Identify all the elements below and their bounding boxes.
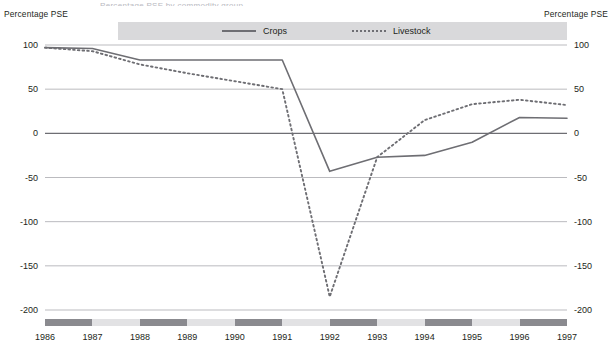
gridlines bbox=[45, 45, 567, 310]
x-band-segment-1993 bbox=[377, 319, 424, 326]
x-tick-1993: 1993 bbox=[367, 332, 387, 342]
chart-canvas: Percentage PSE by commodity group Percen… bbox=[0, 0, 612, 354]
series-layer bbox=[45, 48, 567, 297]
y-tick-left-0: 0 bbox=[33, 128, 38, 138]
x-tick-1995: 1995 bbox=[462, 332, 482, 342]
y-tick-right--200: -200 bbox=[574, 305, 592, 315]
y-tick-right--50: -50 bbox=[574, 173, 587, 183]
y-tick-left--100: -100 bbox=[20, 217, 38, 227]
x-band-segment-1989 bbox=[187, 319, 234, 326]
x-tick-1990: 1990 bbox=[225, 332, 245, 342]
x-band-segment-1988 bbox=[140, 319, 187, 326]
series-line-crops bbox=[45, 48, 567, 172]
x-band-segment-1995 bbox=[472, 319, 519, 326]
chart-plot-svg bbox=[0, 0, 612, 354]
x-axis-year-band bbox=[45, 319, 567, 326]
x-tick-1992: 1992 bbox=[320, 332, 340, 342]
x-tick-1989: 1989 bbox=[177, 332, 197, 342]
y-tick-right-50: 50 bbox=[574, 84, 584, 94]
x-band-segment-1994 bbox=[425, 319, 472, 326]
x-tick-1997: 1997 bbox=[557, 332, 577, 342]
x-tick-1991: 1991 bbox=[272, 332, 292, 342]
x-band-segment-1996 bbox=[520, 319, 567, 326]
y-tick-left-50: 50 bbox=[28, 84, 38, 94]
x-tick-1996: 1996 bbox=[510, 332, 530, 342]
y-tick-right--100: -100 bbox=[574, 217, 592, 227]
y-tick-right-100: 100 bbox=[574, 40, 589, 50]
x-band-segment-1992 bbox=[330, 319, 377, 326]
y-tick-right-0: 0 bbox=[574, 128, 579, 138]
x-band-segment-1990 bbox=[235, 319, 282, 326]
x-tick-1988: 1988 bbox=[130, 332, 150, 342]
y-tick-left--150: -150 bbox=[20, 261, 38, 271]
x-band-segment-1991 bbox=[282, 319, 329, 326]
y-tick-right--150: -150 bbox=[574, 261, 592, 271]
x-band-segment-1986 bbox=[45, 319, 92, 326]
x-tick-1986: 1986 bbox=[35, 332, 55, 342]
x-tick-1994: 1994 bbox=[415, 332, 435, 342]
y-tick-left-100: 100 bbox=[23, 40, 38, 50]
x-band-segment-1987 bbox=[92, 319, 139, 326]
series-line-livestock bbox=[45, 48, 567, 297]
y-tick-left--50: -50 bbox=[25, 173, 38, 183]
x-tick-1987: 1987 bbox=[82, 332, 102, 342]
y-tick-left--200: -200 bbox=[20, 305, 38, 315]
